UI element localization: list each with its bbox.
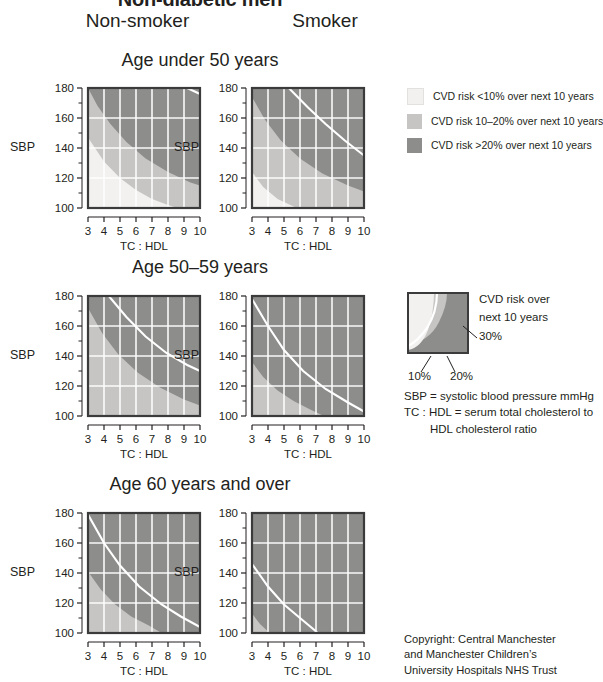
mini-key-heading-1: CVD risk over	[479, 292, 550, 308]
copyright-line-3: University Hospitals NHS Trust	[404, 664, 557, 676]
svg-text:100: 100	[55, 410, 74, 422]
svg-text:100: 100	[219, 410, 238, 422]
svg-text:3: 3	[85, 650, 91, 662]
svg-text:5: 5	[281, 650, 287, 662]
svg-text:6: 6	[297, 650, 303, 662]
svg-text:140: 140	[55, 567, 74, 579]
y-axis-label-sbp: SBP	[174, 140, 199, 154]
mini-key-label-20: 20%	[450, 370, 473, 382]
svg-text:180: 180	[219, 507, 238, 519]
svg-text:160: 160	[55, 537, 74, 549]
svg-text:5: 5	[281, 433, 287, 445]
svg-text:3: 3	[249, 433, 255, 445]
svg-text:10: 10	[194, 650, 207, 662]
svg-text:120: 120	[219, 380, 238, 392]
svg-text:10: 10	[194, 225, 207, 237]
svg-text:5: 5	[281, 225, 287, 237]
svg-text:140: 140	[55, 350, 74, 362]
svg-text:10: 10	[358, 650, 371, 662]
svg-text:6: 6	[297, 433, 303, 445]
svg-text:9: 9	[345, 650, 351, 662]
svg-text:8: 8	[329, 650, 335, 662]
svg-text:180: 180	[219, 290, 238, 302]
svg-text:6: 6	[133, 433, 139, 445]
svg-text:8: 8	[165, 225, 171, 237]
svg-text:160: 160	[219, 112, 238, 124]
column-header-non-smoker: Non-smoker	[35, 10, 240, 32]
svg-text:6: 6	[297, 225, 303, 237]
y-axis-label-sbp: SBP	[174, 348, 199, 362]
svg-text:TC : HDL: TC : HDL	[284, 448, 333, 460]
svg-text:7: 7	[313, 433, 319, 445]
legend-item-low: CVD risk <10% over next 10 years	[407, 88, 592, 105]
legend-swatch-high	[407, 138, 422, 153]
svg-text:10: 10	[194, 433, 207, 445]
risk-panel-2: 100120140160180345678910TC : HDL	[218, 78, 380, 254]
svg-text:140: 140	[219, 142, 238, 154]
svg-text:8: 8	[165, 650, 171, 662]
svg-text:100: 100	[55, 202, 74, 214]
y-axis-label-sbp: SBP	[10, 140, 35, 154]
svg-text:7: 7	[149, 433, 155, 445]
definitions: SBP = systolic blood pressure mmHg TC : …	[404, 388, 594, 437]
svg-text:4: 4	[101, 650, 108, 662]
svg-text:120: 120	[55, 172, 74, 184]
svg-text:8: 8	[165, 433, 171, 445]
svg-text:140: 140	[219, 350, 238, 362]
legend-item-high: CVD risk >20% over next 10 years	[407, 138, 592, 153]
svg-text:3: 3	[85, 225, 91, 237]
svg-text:7: 7	[313, 650, 319, 662]
svg-text:100: 100	[55, 627, 74, 639]
risk-panel-5: 100120140160180345678910TC : HDL	[54, 503, 216, 679]
mini-key-label-30: 30%	[479, 329, 502, 345]
svg-text:120: 120	[219, 172, 238, 184]
risk-legend: CVD risk <10% over next 10 years CVD ris…	[407, 88, 592, 162]
svg-text:9: 9	[181, 433, 187, 445]
svg-text:180: 180	[55, 82, 74, 94]
svg-text:7: 7	[149, 225, 155, 237]
svg-text:140: 140	[55, 142, 74, 154]
svg-text:6: 6	[133, 650, 139, 662]
svg-text:TC : HDL: TC : HDL	[120, 448, 169, 460]
svg-text:5: 5	[117, 225, 123, 237]
column-header-smoker: Smoker	[245, 10, 405, 32]
section-heading-age-60-over: Age 60 years and over	[0, 474, 400, 495]
y-axis-label-sbp: SBP	[174, 565, 199, 579]
svg-text:100: 100	[219, 202, 238, 214]
mini-key-heading-2: next 10 years	[479, 310, 548, 326]
section-heading-age-50-59: Age 50–59 years	[0, 257, 400, 278]
svg-text:180: 180	[219, 82, 238, 94]
svg-text:5: 5	[117, 650, 123, 662]
svg-text:7: 7	[313, 225, 319, 237]
svg-text:4: 4	[265, 225, 272, 237]
legend-swatch-low	[407, 88, 424, 105]
mini-key-pointer-30	[461, 325, 479, 341]
mini-key-label-10: 10%	[408, 370, 431, 382]
svg-text:160: 160	[219, 537, 238, 549]
svg-text:TC : HDL: TC : HDL	[120, 665, 169, 677]
svg-text:4: 4	[101, 433, 108, 445]
svg-text:160: 160	[55, 112, 74, 124]
legend-item-mid: CVD risk 10–20% over next 10 years	[407, 114, 592, 129]
svg-text:7: 7	[149, 650, 155, 662]
svg-text:3: 3	[85, 433, 91, 445]
svg-text:9: 9	[345, 433, 351, 445]
y-axis-label-sbp: SBP	[10, 565, 35, 579]
svg-text:9: 9	[345, 225, 351, 237]
copyright-notice: Copyright: Central Manchester and Manche…	[404, 632, 594, 678]
risk-panel-3: 100120140160180345678910TC : HDL	[54, 286, 216, 462]
definition-tchdl-cont: HDL cholesterol ratio	[404, 421, 594, 437]
svg-text:140: 140	[219, 567, 238, 579]
svg-text:3: 3	[249, 650, 255, 662]
svg-text:160: 160	[55, 320, 74, 332]
risk-panel-4: 100120140160180345678910TC : HDL	[218, 286, 380, 462]
section-heading-age-under-50: Age under 50 years	[0, 50, 400, 71]
svg-text:180: 180	[55, 290, 74, 302]
definition-sbp: SBP = systolic blood pressure mmHg	[404, 390, 594, 402]
svg-text:8: 8	[329, 433, 335, 445]
legend-swatch-mid	[407, 114, 422, 129]
svg-text:6: 6	[133, 225, 139, 237]
svg-text:4: 4	[101, 225, 108, 237]
svg-text:100: 100	[219, 627, 238, 639]
svg-text:4: 4	[265, 433, 272, 445]
